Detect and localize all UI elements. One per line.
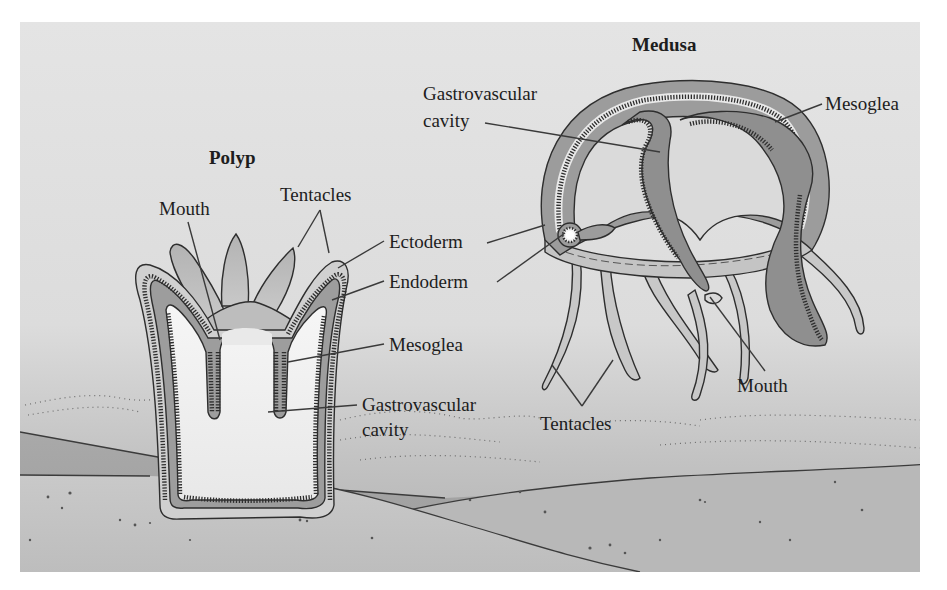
polyp-gastrovascular-label-line1: Gastrovascular (362, 394, 477, 415)
medusa-title: Medusa (632, 34, 697, 55)
medusa-gastrovascular-label-line1: Gastrovascular (423, 83, 538, 104)
medusa-gastrovascular-label-line2: cavity (423, 110, 470, 131)
polyp-mouth-label: Mouth (159, 198, 210, 219)
polyp-illustration (136, 234, 348, 519)
medusa-mouth-label: Mouth (737, 375, 788, 396)
polyp-mesoglea-label: Mesoglea (389, 334, 463, 355)
endoderm-label: Endoderm (389, 271, 468, 292)
polyp-tentacles-label: Tentacles (280, 184, 351, 205)
polyp-gastrovascular-label-line2: cavity (362, 419, 409, 440)
polyp-title: Polyp (209, 147, 255, 168)
ectoderm-label: Ectoderm (389, 231, 463, 252)
medusa-mesoglea-label: Mesoglea (825, 93, 899, 114)
polyp-medusa-diagram: Medusa Gastrovascular cavity Mesoglea Po… (0, 0, 947, 590)
medusa-tentacles-label: Tentacles (540, 413, 611, 434)
